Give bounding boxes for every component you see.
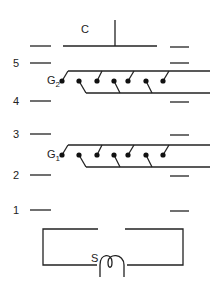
level-3-label: 3 (13, 128, 19, 140)
tube-schematic: C 5 4 3 2 1 (0, 0, 219, 292)
grid-g2-label: G2 (47, 74, 61, 89)
level-1-label: 1 (13, 204, 19, 216)
anode-c (63, 20, 157, 46)
filament-circuit (43, 229, 183, 277)
filament-label: S (91, 252, 98, 264)
left-level-dashes (30, 46, 51, 210)
anode-label: C (81, 23, 89, 35)
level-2-label: 2 (13, 169, 19, 181)
level-4-label: 4 (13, 95, 19, 107)
grid-g2 (59, 71, 210, 93)
grid-g1-label: G1 (47, 148, 61, 163)
level-5-label: 5 (13, 57, 19, 69)
grid-g1 (59, 145, 210, 167)
